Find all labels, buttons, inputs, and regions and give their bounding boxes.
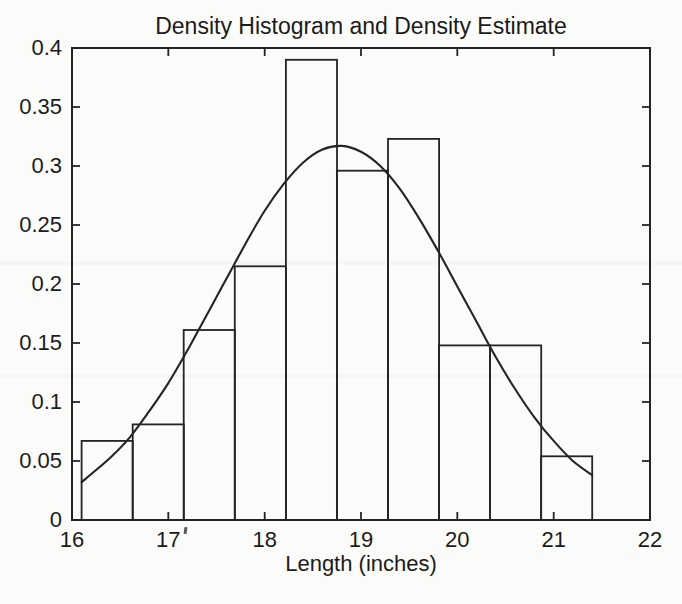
tick-marks <box>72 48 650 520</box>
histogram-bar <box>184 330 235 520</box>
y-tick-label: 0.15 <box>0 332 62 354</box>
plot-area <box>0 0 682 604</box>
y-tick-label: 0.4 <box>0 37 62 59</box>
x-tick-label: 16 <box>60 529 84 551</box>
histogram-bar <box>490 345 541 520</box>
x-tick-label: 22 <box>638 529 662 551</box>
histogram-bar <box>235 266 286 520</box>
histogram-bar <box>133 424 184 520</box>
x-axis-label: Length (inches) <box>72 551 650 577</box>
histogram-bar <box>82 441 133 520</box>
histogram-bar <box>388 139 439 520</box>
y-tick-label: 0.05 <box>0 450 62 472</box>
x-tick-label: 18 <box>252 529 276 551</box>
histogram-bars <box>82 60 593 520</box>
y-tick-label: 0.25 <box>0 214 62 236</box>
x-tick-label: 20 <box>445 529 469 551</box>
y-tick-label: 0.1 <box>0 391 62 413</box>
y-tick-label: 0.35 <box>0 96 62 118</box>
plot-border <box>72 48 650 520</box>
x-tick-label: 19 <box>349 529 373 551</box>
x-tick-label: 17 <box>156 529 180 551</box>
histogram-bar <box>541 456 592 520</box>
histogram-bar <box>286 60 337 520</box>
x-tick-label: 21 <box>541 529 565 551</box>
y-tick-label: 0 <box>0 509 62 531</box>
y-tick-label: 0.2 <box>0 273 62 295</box>
y-tick-label: 0.3 <box>0 155 62 177</box>
scanned-figure: Density Histogram and Density Estimate 1… <box>0 0 682 604</box>
histogram-bar <box>337 171 388 520</box>
histogram-bar <box>439 345 490 520</box>
